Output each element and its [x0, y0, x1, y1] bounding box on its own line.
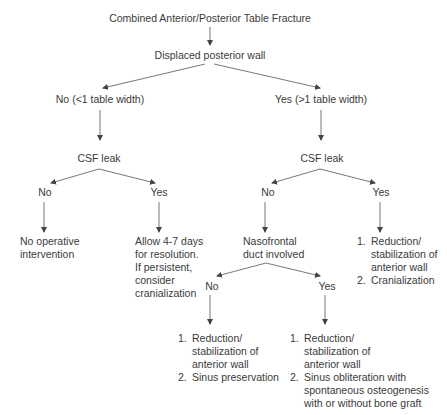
- outcome-line: No operative: [20, 235, 80, 248]
- outcome-line: If persistent,: [135, 261, 203, 274]
- list-number: 1.: [178, 332, 187, 345]
- arrow-lcsf-no: [51, 169, 99, 183]
- list-number: 2.: [290, 371, 299, 384]
- list-item: 1. Reduction/ stabilization of anterior …: [178, 332, 279, 371]
- list-number: 2.: [178, 371, 187, 384]
- list-line: stabilization of: [304, 345, 429, 358]
- outcome-no-operative-intervention: No operative intervention: [20, 235, 80, 261]
- branch-yes-label: Yes (>1 table width): [275, 93, 367, 106]
- list-line: stabilization of: [371, 248, 438, 261]
- list-line: stabilization of: [192, 345, 279, 358]
- question-displaced-posterior-wall: Displaced posterior wall: [155, 49, 266, 62]
- arrow-duct-no: [217, 263, 266, 276]
- list-item: 2. Cranialization: [357, 274, 438, 287]
- question-line: Nasofrontal: [243, 235, 304, 248]
- branch-no-label: No (<1 table width): [56, 93, 144, 106]
- arrow-q1-to-yes: [214, 64, 320, 88]
- right-csf-leak-node: CSF leak: [300, 152, 343, 165]
- list-line: anterior wall: [304, 358, 429, 371]
- arrow-q1-to-no: [103, 64, 205, 88]
- left-csf-leak-node: CSF leak: [77, 152, 120, 165]
- outcome-line: intervention: [20, 248, 80, 261]
- duct-yes-label: Yes: [318, 280, 335, 293]
- list-line: Reduction/: [371, 235, 438, 248]
- list-line: Reduction/: [192, 332, 279, 345]
- arrow-rcsf-no: [272, 169, 320, 183]
- list-line: Sinus preservation: [192, 371, 279, 384]
- list-number: 1.: [357, 235, 366, 248]
- arrow-lcsf-yes: [99, 169, 155, 183]
- outcome-allow-resolution: Allow 4-7 days for resolution. If persis…: [135, 235, 203, 300]
- right-csf-yes-label: Yes: [372, 186, 389, 199]
- outcome-line: cranialization: [135, 287, 203, 300]
- outcome-line: consider: [135, 274, 203, 287]
- question-line: duct involved: [243, 248, 304, 261]
- list-line: Reduction/: [304, 332, 429, 345]
- duct-no-label: No: [205, 280, 218, 293]
- list-line: anterior wall: [192, 358, 279, 371]
- right-csf-no-label: No: [261, 186, 274, 199]
- left-csf-no-label: No: [38, 186, 51, 199]
- outcome-line: for resolution.: [135, 248, 203, 261]
- outcome-cranialization-list: 1. Reduction/ stabilization of anterior …: [357, 235, 438, 287]
- list-line: Sinus obliteration with: [304, 371, 429, 384]
- list-item: 1. Reduction/ stabilization of anterior …: [290, 332, 429, 371]
- list-number: 2.: [357, 274, 366, 287]
- list-line: Cranialization: [371, 274, 438, 287]
- list-line: spontaneous osteogenesis: [304, 384, 429, 397]
- outcome-sinus-preservation-list: 1. Reduction/ stabilization of anterior …: [178, 332, 279, 384]
- outcome-sinus-obliteration-list: 1. Reduction/ stabilization of anterior …: [290, 332, 429, 410]
- root-node: Combined Anterior/Posterior Table Fractu…: [109, 12, 311, 25]
- list-line: anterior wall: [371, 261, 438, 274]
- list-item: 2. Sinus obliteration with spontaneous o…: [290, 371, 429, 410]
- list-number: 1.: [290, 332, 299, 345]
- outcome-line: Allow 4-7 days: [135, 235, 203, 248]
- left-csf-yes-label: Yes: [150, 186, 167, 199]
- list-line: with or without bone graft: [304, 397, 429, 410]
- arrow-rcsf-yes: [320, 169, 375, 183]
- list-item: 2. Sinus preservation: [178, 371, 279, 384]
- list-item: 1. Reduction/ stabilization of anterior …: [357, 235, 438, 274]
- arrow-duct-yes: [266, 263, 320, 276]
- question-nasofrontal-duct: Nasofrontal duct involved: [243, 235, 304, 261]
